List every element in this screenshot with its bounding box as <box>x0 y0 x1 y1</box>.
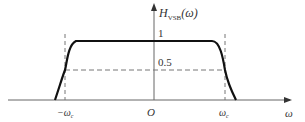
x-axis-label: ω <box>285 107 293 119</box>
pos-cutoff-label: ωc <box>219 107 229 119</box>
vsb-filter-diagram: HVSB(ω) 1 0.5 O −ωc ωc ω <box>0 0 305 122</box>
tick-label-one: 1 <box>158 27 164 39</box>
tick-label-half: 0.5 <box>158 56 172 68</box>
x-axis-arrow-icon <box>284 97 292 103</box>
neg-cutoff-label: −ωc <box>57 107 74 119</box>
y-axis-arrow-icon <box>151 3 157 11</box>
origin-label: O <box>147 106 155 118</box>
y-axis-label: HVSB(ω) <box>158 6 198 22</box>
